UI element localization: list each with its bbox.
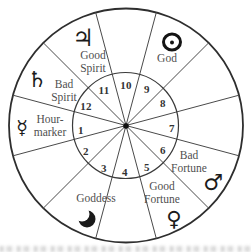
label-bad-spirit: Bad Spirit (51, 78, 77, 104)
label-good-spirit: Good Spirit (80, 49, 106, 75)
mercury-icon: ☿ (16, 118, 28, 137)
house-number-7: 7 (169, 122, 175, 134)
mars-icon: ♂ (203, 172, 223, 194)
house-number-10: 10 (120, 79, 132, 91)
moon-icon (79, 211, 96, 228)
label-hour-marker: Hour- marker (34, 113, 67, 139)
house-wheel-diagram: 1 2 3 4 5 6 7 8 9 10 11 12 Good Spirit B… (0, 0, 251, 252)
house-number-11: 11 (99, 84, 110, 96)
label-good-fortune: Good Fortune (144, 180, 180, 206)
house-number-2: 2 (83, 145, 89, 157)
jupiter-icon: ♃ (72, 26, 94, 50)
cropped-caption-remnant (0, 246, 251, 252)
saturn-icon: ♄ (27, 69, 47, 91)
venus-icon: ♀ (166, 209, 181, 230)
house-number-1: 1 (78, 124, 84, 136)
house-number-8: 8 (160, 97, 166, 109)
house-number-6: 6 (160, 144, 166, 156)
label-god: God (157, 52, 177, 65)
center-hub-dot (123, 123, 129, 129)
house-number-5: 5 (144, 161, 150, 173)
house-number-3: 3 (101, 162, 107, 174)
sun-icon (162, 33, 182, 52)
house-number-4: 4 (122, 166, 128, 178)
label-goddess: Goddess (76, 192, 116, 205)
house-number-9: 9 (144, 83, 150, 95)
label-bad-fortune: Bad Fortune (171, 149, 207, 175)
house-number-12: 12 (80, 100, 92, 112)
